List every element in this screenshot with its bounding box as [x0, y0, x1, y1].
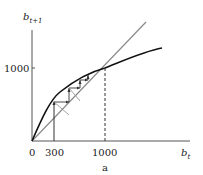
panel-label: a [102, 162, 108, 173]
x-tick-label-1000: 1000 [92, 147, 117, 158]
x-axis-label: bt [181, 147, 190, 161]
y-tick-label-1000: 1000 [4, 63, 29, 74]
recruitment-curve [32, 48, 162, 141]
cobweb-steps [54, 75, 88, 115]
y-axis-label: bt+1 [23, 11, 43, 25]
diagonal-line [32, 22, 146, 141]
cobweb-diagram: bt+1 1000 0 300 1000 bt a [0, 0, 203, 175]
x-tick-label-300: 300 [45, 147, 64, 158]
x-tick-label-0: 0 [29, 147, 35, 158]
